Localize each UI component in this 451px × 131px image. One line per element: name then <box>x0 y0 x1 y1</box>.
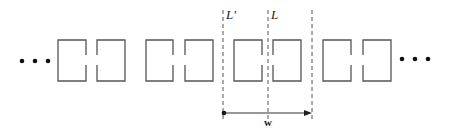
unit-cell-boundaries <box>223 10 312 122</box>
resonator-right-1 <box>185 40 213 81</box>
arrowhead-icon <box>304 110 312 116</box>
resonator-left-0 <box>58 40 86 81</box>
ellipsis-left-icon <box>20 59 51 64</box>
label-L-prime: L' <box>226 8 236 21</box>
resonator-left-2 <box>234 40 262 81</box>
resonator-right-2 <box>273 40 301 81</box>
resonator-right-0 <box>97 40 125 81</box>
ellipsis-right-icon <box>400 57 431 62</box>
resonator-left-1 <box>146 40 173 81</box>
resonator-left-3 <box>323 40 351 81</box>
resonator-right-3 <box>363 40 391 81</box>
label-L: L <box>271 8 278 21</box>
resonator-array <box>58 40 391 81</box>
label-w: w <box>264 117 272 128</box>
